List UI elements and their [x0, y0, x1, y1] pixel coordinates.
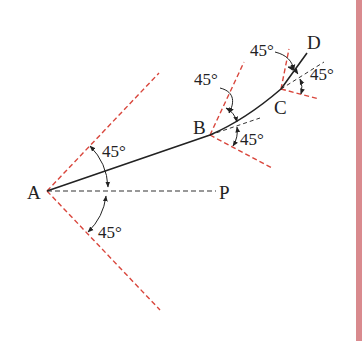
boundary-line-c-lower — [281, 89, 319, 99]
boundary-line-a-upper — [47, 73, 159, 191]
angle-label-a-lower: 45° — [98, 224, 122, 241]
angle-arc-c-lower — [300, 79, 302, 94]
angle-arc-c-upper — [275, 52, 294, 70]
right-edge-bar — [356, 0, 362, 341]
point-label-b: B — [193, 118, 206, 137]
angle-arc-b-arrow — [226, 108, 237, 122]
angle-arc-b-lower — [233, 127, 237, 146]
path-abcd — [47, 53, 307, 191]
angle-label-a-upper: 45° — [102, 143, 126, 160]
angle-label-b-upper: 45° — [194, 71, 218, 88]
point-label-a: A — [27, 183, 41, 202]
point-label-c: C — [274, 98, 287, 117]
angle-label-c-upper: 45° — [250, 42, 274, 59]
angle-label-b-lower: 45° — [240, 131, 264, 148]
point-label-d: D — [307, 33, 321, 52]
point-label-p: P — [219, 183, 230, 202]
angle-label-c-lower: 45° — [310, 66, 334, 83]
